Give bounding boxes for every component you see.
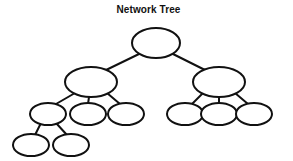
tree-graphic (0, 0, 293, 161)
tree-node[interactable] (108, 103, 144, 125)
network-tree-diagram: Network Tree (0, 0, 293, 161)
tree-node[interactable] (236, 103, 272, 125)
tree-node[interactable] (70, 103, 106, 125)
node-layer (13, 28, 272, 156)
tree-edge (56, 123, 67, 135)
tree-node[interactable] (65, 67, 117, 97)
tree-node[interactable] (167, 103, 203, 125)
tree-node[interactable] (53, 134, 89, 156)
tree-node[interactable] (13, 134, 49, 156)
tree-edge (107, 93, 120, 104)
tree-edge (104, 54, 139, 71)
tree-node[interactable] (201, 103, 237, 125)
tree-node[interactable] (30, 103, 66, 125)
tree-edge (173, 54, 207, 71)
tree-node[interactable] (193, 67, 245, 97)
tree-edge (56, 93, 75, 104)
tree-edge (235, 93, 248, 104)
tree-node[interactable] (132, 28, 180, 58)
tree-edge (192, 93, 203, 104)
